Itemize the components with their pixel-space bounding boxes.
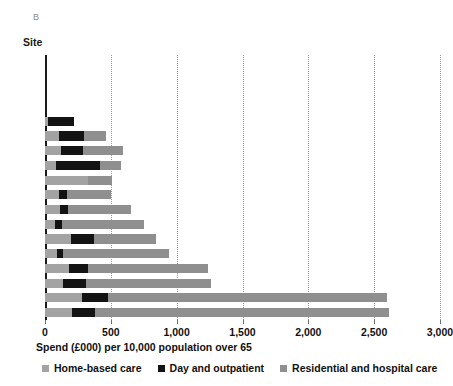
x-tick-label: 0 bbox=[42, 326, 48, 338]
bar-segment-day bbox=[59, 131, 84, 140]
bar-rows bbox=[45, 55, 440, 320]
bar-segment-resid bbox=[68, 205, 131, 214]
bar-segment-day bbox=[48, 117, 74, 126]
legend-item: Day and outpatient bbox=[158, 362, 265, 374]
x-tick-label: 1,500 bbox=[229, 326, 255, 338]
x-tick-mark bbox=[111, 320, 112, 324]
bar-segment-home bbox=[45, 249, 57, 258]
panel-letter: B bbox=[33, 12, 39, 22]
bar-segment-resid bbox=[84, 131, 106, 140]
bar-segment-home bbox=[45, 264, 69, 273]
bar-segment-home bbox=[45, 190, 59, 199]
bar-segment-home bbox=[45, 308, 72, 317]
bar-row bbox=[45, 308, 389, 317]
bar-segment-day bbox=[82, 293, 108, 302]
bar-segment-day bbox=[59, 190, 66, 199]
x-tick-label: 1,000 bbox=[164, 326, 190, 338]
bar-segment-day bbox=[63, 279, 87, 288]
bar-segment-resid bbox=[63, 249, 170, 258]
bar-segment-resid bbox=[67, 190, 112, 199]
bar-segment-day bbox=[60, 205, 68, 214]
chart-legend: Home-based careDay and outpatientResiden… bbox=[42, 362, 437, 374]
bar-segment-resid bbox=[108, 293, 386, 302]
bar-row bbox=[45, 131, 106, 140]
bar-segment-resid bbox=[94, 234, 155, 243]
bar-row bbox=[45, 264, 208, 273]
x-tick-mark bbox=[243, 320, 244, 324]
bar-segment-home bbox=[45, 131, 59, 140]
plot-area bbox=[45, 55, 440, 320]
bar-segment-day bbox=[69, 264, 87, 273]
y-axis-title: Site bbox=[23, 36, 42, 48]
gridline bbox=[440, 55, 441, 320]
bar-row bbox=[45, 117, 74, 126]
bar-segment-home bbox=[45, 279, 63, 288]
bar-row bbox=[45, 146, 123, 155]
legend-item: Residential and hospital care bbox=[280, 362, 437, 374]
bar-segment-home bbox=[45, 234, 71, 243]
bar-segment-home bbox=[45, 220, 55, 229]
bar-row bbox=[45, 279, 211, 288]
x-tick-mark bbox=[440, 320, 441, 324]
x-axis-title: Spend (£000) per 10,000 population over … bbox=[36, 341, 252, 353]
bar-segment-day bbox=[55, 220, 62, 229]
bar-row bbox=[45, 190, 111, 199]
bar-segment-day bbox=[72, 308, 95, 317]
bar-segment-home bbox=[45, 205, 60, 214]
x-tick-label: 2,500 bbox=[361, 326, 387, 338]
bar-segment-home bbox=[45, 161, 56, 170]
bar-segment-resid bbox=[88, 264, 208, 273]
bar-segment-home bbox=[45, 146, 61, 155]
bar-row bbox=[45, 249, 169, 258]
bar-segment-resid bbox=[88, 176, 112, 185]
legend-label: Home-based care bbox=[54, 362, 142, 374]
bar-segment-resid bbox=[100, 161, 121, 170]
x-tick-label: 2,000 bbox=[295, 326, 321, 338]
x-tick-mark bbox=[308, 320, 309, 324]
bar-segment-day bbox=[61, 146, 83, 155]
x-tick-label: 3,000 bbox=[427, 326, 453, 338]
bar-row bbox=[45, 205, 131, 214]
x-tick-mark bbox=[374, 320, 375, 324]
bar-row bbox=[45, 234, 156, 243]
legend-item: Home-based care bbox=[42, 362, 142, 374]
bar-segment-day bbox=[71, 234, 95, 243]
legend-swatch-home bbox=[42, 365, 49, 372]
legend-label: Residential and hospital care bbox=[292, 362, 437, 374]
bar-row bbox=[45, 176, 112, 185]
bar-segment-resid bbox=[83, 146, 124, 155]
bar-segment-resid bbox=[95, 308, 389, 317]
bar-segment-resid bbox=[86, 279, 210, 288]
x-axis: 05001,0001,5002,0002,5003,000 bbox=[45, 320, 440, 321]
bar-row bbox=[45, 161, 121, 170]
bar-row bbox=[45, 220, 144, 229]
bar-segment-home bbox=[45, 293, 82, 302]
bar-segment-day bbox=[56, 161, 101, 170]
x-tick-mark bbox=[45, 320, 46, 324]
bar-segment-home bbox=[45, 176, 88, 185]
legend-swatch-day bbox=[158, 365, 165, 372]
legend-label: Day and outpatient bbox=[170, 362, 265, 374]
bar-segment-resid bbox=[62, 220, 144, 229]
legend-swatch-resid bbox=[280, 365, 287, 372]
x-tick-label: 500 bbox=[102, 326, 120, 338]
x-tick-mark bbox=[177, 320, 178, 324]
bar-row bbox=[45, 293, 387, 302]
